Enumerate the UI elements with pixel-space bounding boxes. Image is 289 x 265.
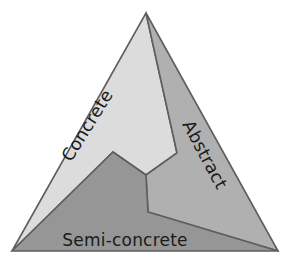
triangle-diagram: Concrete Abstract Semi-concrete <box>0 0 289 265</box>
label-semi-concrete: Semi-concrete <box>62 230 187 250</box>
diagram-canvas: Concrete Abstract Semi-concrete <box>0 0 289 265</box>
